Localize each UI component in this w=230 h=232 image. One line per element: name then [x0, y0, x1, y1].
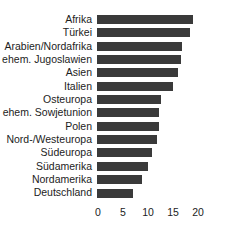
bar-track: [97, 108, 159, 117]
bar-row: Asien: [0, 66, 230, 79]
bar: [97, 108, 159, 117]
bar-track: [97, 175, 142, 184]
bar-track: [97, 28, 190, 37]
x-tick-label: 5: [120, 206, 126, 219]
bar: [97, 148, 152, 157]
bar-track: [97, 68, 178, 77]
bar: [97, 15, 193, 24]
bar-row: Afrika: [0, 13, 230, 26]
bar: [97, 162, 148, 171]
bar: [97, 42, 182, 51]
category-label: Südamerika: [36, 160, 92, 173]
bar-track: [97, 42, 182, 51]
category-label: Polen: [65, 120, 92, 133]
bar: [97, 175, 142, 184]
plot-area: AfrikaTürkeiArabien/Nordafrikaehem. Jugo…: [0, 0, 230, 232]
bar: [97, 135, 157, 144]
bar-chart-figure: AfrikaTürkeiArabien/Nordafrikaehem. Jugo…: [0, 0, 230, 232]
bar-row: Südeuropa: [0, 146, 230, 159]
bar-track: [97, 15, 193, 24]
bar-row: Arabien/Nordafrika: [0, 40, 230, 53]
category-label: Nord-/Westeuropa: [6, 133, 92, 146]
bar-row: Nordamerika: [0, 173, 230, 186]
bar-row: Südamerika: [0, 160, 230, 173]
bar-track: [97, 135, 157, 144]
bar-row: Osteuropa: [0, 93, 230, 106]
category-label: Türkei: [63, 26, 92, 39]
bar: [97, 82, 173, 91]
category-label: Osteuropa: [43, 93, 92, 106]
bar-row: ehem. Jugoslawien: [0, 53, 230, 66]
bar-row: Deutschland: [0, 186, 230, 199]
bar-track: [97, 122, 159, 131]
category-label: Südeuropa: [41, 146, 92, 159]
bar-track: [97, 55, 181, 64]
x-axis: 05101520: [0, 204, 230, 226]
bar: [97, 95, 161, 104]
bar-row: Türkei: [0, 26, 230, 39]
bar-track: [97, 162, 148, 171]
category-label: Nordamerika: [32, 173, 92, 186]
x-tick-label: 20: [192, 206, 204, 219]
bar: [97, 28, 190, 37]
bar: [97, 122, 159, 131]
bar-row: ehem. Sowjetunion: [0, 106, 230, 119]
category-label: Afrika: [65, 13, 92, 26]
category-label: Deutschland: [34, 186, 92, 199]
category-label: ehem. Jugoslawien: [2, 53, 92, 66]
bar: [97, 55, 181, 64]
bar: [97, 189, 133, 198]
x-tick-label: 15: [167, 206, 179, 219]
category-label: Asien: [66, 66, 92, 79]
x-tick-label: 0: [95, 206, 101, 219]
bar-track: [97, 189, 133, 198]
bar-row: Nord-/Westeuropa: [0, 133, 230, 146]
bar-track: [97, 148, 152, 157]
bar-row: Polen: [0, 120, 230, 133]
bar-track: [97, 95, 161, 104]
x-tick-label: 10: [142, 206, 154, 219]
category-label: ehem. Sowjetunion: [3, 106, 92, 119]
category-label: Arabien/Nordafrika: [4, 40, 92, 53]
category-label: Italien: [64, 80, 92, 93]
bar-track: [97, 82, 173, 91]
bar-row: Italien: [0, 80, 230, 93]
bar: [97, 68, 178, 77]
